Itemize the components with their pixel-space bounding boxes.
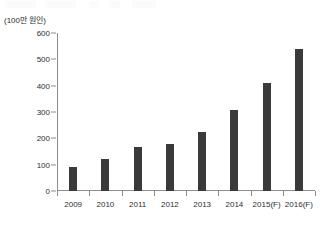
- bar-group: 2016(F): [283, 33, 315, 191]
- x-tick-mark: [89, 191, 90, 196]
- y-axis-unit-label: (100만 원인): [4, 14, 46, 25]
- bar: [69, 167, 77, 191]
- y-tick-mark: [51, 112, 56, 113]
- x-tick-mark: [154, 191, 155, 196]
- x-tick-mark: [283, 191, 284, 196]
- y-tick-mark: [51, 164, 56, 165]
- bar: [134, 147, 142, 191]
- y-tick-label: 0: [46, 187, 50, 196]
- bar-group: 2012: [154, 33, 186, 191]
- bar-group: 2013: [186, 33, 218, 191]
- bar: [295, 49, 303, 191]
- x-tick-label: 2014: [225, 200, 243, 209]
- y-tick-mark: [51, 191, 56, 192]
- bar-group: 2009: [57, 33, 89, 191]
- y-tick-mark: [51, 138, 56, 139]
- bar: [263, 83, 271, 191]
- y-tick-mark: [51, 85, 56, 86]
- bar-group: 2010: [89, 33, 121, 191]
- y-tick-label: 400: [37, 81, 50, 90]
- y-tick-label: 100: [37, 160, 50, 169]
- bars-layer: 2009201020112012201320142015(F)2016(F): [57, 33, 315, 191]
- x-tick-mark: [186, 191, 187, 196]
- x-tick-label: 2015(F): [253, 200, 281, 209]
- bar-group: 2014: [218, 33, 250, 191]
- x-tick-label: 2013: [193, 200, 211, 209]
- y-tick-label: 300: [37, 108, 50, 117]
- x-tick-label: 2016(F): [285, 200, 313, 209]
- x-tick-mark: [251, 191, 252, 196]
- y-tick-label: 200: [37, 134, 50, 143]
- x-tick-label: 2010: [96, 200, 114, 209]
- x-tick-mark: [218, 191, 219, 196]
- x-tick-mark: [315, 191, 316, 196]
- plot-area: 0100200300400500600 20092010201120122013…: [57, 33, 315, 191]
- y-tick-label: 600: [37, 29, 50, 38]
- cropped-header-strip: [6, 1, 156, 8]
- x-tick-mark: [122, 191, 123, 196]
- y-tick-label: 500: [37, 55, 50, 64]
- bar-group: 2011: [122, 33, 154, 191]
- y-tick-mark: [51, 33, 56, 34]
- x-tick-label: 2012: [161, 200, 179, 209]
- bar-group: 2015(F): [251, 33, 283, 191]
- x-tick-label: 2009: [64, 200, 82, 209]
- bar: [198, 132, 206, 191]
- bar-chart-figure: (100만 원인) 0100200300400500600 2009201020…: [0, 0, 326, 226]
- x-tick-mark: [57, 191, 58, 196]
- y-tick-mark: [51, 59, 56, 60]
- bar: [230, 110, 238, 191]
- x-tick-label: 2011: [129, 200, 146, 209]
- bar: [101, 159, 109, 191]
- bar: [166, 144, 174, 191]
